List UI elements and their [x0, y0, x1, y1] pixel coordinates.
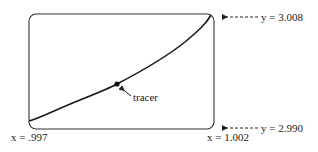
- tracer-label: tracer: [133, 91, 158, 103]
- ymin-label: y = 2.990: [261, 122, 303, 134]
- tracer-point: [114, 81, 119, 86]
- viewing-window-frame: [29, 14, 214, 129]
- tracer-arrow-icon: [121, 88, 131, 96]
- function-curve: [29, 15, 211, 121]
- xmax-label: x = 1.002: [207, 131, 249, 143]
- ymax-label: y = 3.008: [261, 11, 303, 23]
- calculator-window-diagram: tracer y = 3.008 y = 2.990 x = .997 x = …: [0, 0, 318, 152]
- xmin-label: x = .997: [11, 131, 48, 143]
